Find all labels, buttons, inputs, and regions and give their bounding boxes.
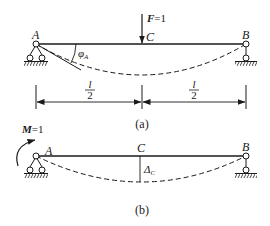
caption-a: (a) <box>135 117 148 131</box>
beam-diagram: φA A B F=1 C <box>0 0 270 226</box>
moment-label: M=1 <box>21 123 44 135</box>
force-label: F=1 <box>146 12 166 24</box>
dimension-line <box>36 85 246 109</box>
dimension-label-left: l 2 <box>85 78 95 101</box>
label-point-c: C <box>146 30 155 44</box>
svg-text:2: 2 <box>191 89 197 101</box>
figure-a: φA A B F=1 C <box>24 12 257 131</box>
label-point-a: A <box>31 28 40 42</box>
label-point-b-b: B <box>242 140 250 154</box>
label-point-a-b: A <box>44 144 53 158</box>
label-point-c-b: C <box>137 141 146 155</box>
deflection-curve-a <box>36 44 246 75</box>
dimension-label-right: l 2 <box>189 78 199 101</box>
angle-label-phi-a: φA <box>78 47 89 61</box>
label-point-b: B <box>242 28 250 42</box>
moment-arrow <box>17 140 35 166</box>
figure-b: ΔC C A B M=1 (b) <box>17 123 257 217</box>
svg-text:2: 2 <box>87 89 93 101</box>
deflection-curve-b <box>36 156 246 182</box>
caption-b: (b) <box>135 203 149 217</box>
angle-arc-phi-a <box>71 44 76 63</box>
deflection-label: ΔC <box>143 163 155 177</box>
